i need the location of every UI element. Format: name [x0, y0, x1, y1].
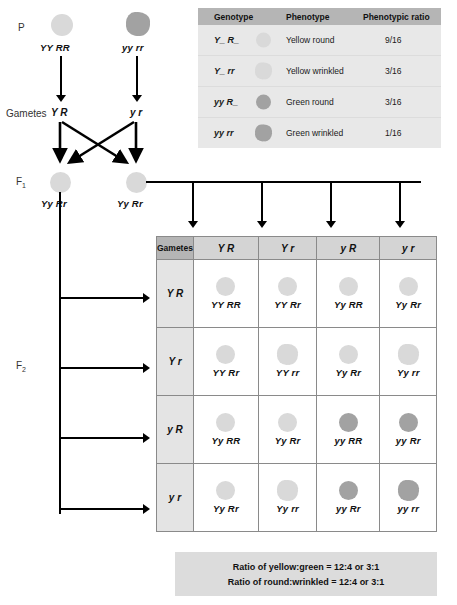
pea-yellow-wrinkled-icon	[256, 64, 271, 79]
pea-green-wrinkled-icon	[256, 126, 271, 141]
phenotype-legend-table: Genotype Phenotype Phenotypic ratio Y_ R…	[198, 8, 441, 148]
col-arrow-shaft-4	[399, 181, 401, 222]
pea-green-round-icon	[256, 95, 271, 110]
punnett-cell-genotype: Yy RR	[334, 299, 363, 310]
legend-header-ratio: Phenotypic ratio	[363, 12, 430, 22]
legend-genotype: Y_ R_	[214, 35, 239, 45]
punnett-cell-genotype: yy Rr	[396, 435, 421, 446]
punnett-row-header-2: Y r	[157, 328, 194, 396]
row-arrow-shaft-4	[59, 508, 144, 510]
pea-yellow-round-icon	[51, 14, 73, 36]
pea-yellow-round-icon	[216, 481, 235, 500]
punnett-cell: Yy rr	[380, 328, 437, 396]
col-arrowhead-1	[188, 221, 198, 228]
legend-genotype: yy R_	[214, 97, 238, 107]
col-arrow-shaft-2	[261, 181, 263, 222]
pea-yellow-round-icon	[339, 345, 358, 364]
punnett-cell: Yy Rr	[193, 464, 258, 532]
punnett-col-header-3: y R	[317, 237, 380, 260]
punnett-cell: YY RR	[193, 260, 258, 328]
row-arrowhead-1	[143, 293, 150, 303]
legend-phenotype: Yellow round	[286, 35, 334, 45]
cross-arrows-group	[40, 120, 170, 175]
legend-pea-swatch	[256, 126, 271, 141]
legend-row: yy rr Green wrinkled 1/16	[198, 118, 441, 148]
legend-pea-swatch	[256, 95, 271, 110]
punnett-corner-label: Gametes	[157, 237, 194, 260]
generation-label-f1-sub: 1	[22, 182, 26, 189]
legend-header-phenotype: Phenotype	[286, 12, 329, 22]
punnett-row-header-1: Y R	[157, 260, 194, 328]
parental-gamete-2: y r	[130, 107, 142, 118]
arrow-shaft-parent-2	[136, 56, 138, 96]
punnett-row: y R Yy RR Yy Rr yy RR yy Rr	[157, 396, 437, 464]
pea-yellow-wrinkled-icon	[278, 481, 297, 500]
col-arrowhead-2	[257, 221, 267, 228]
punnett-cell-genotype: yy rr	[397, 503, 419, 514]
row-arrow-shaft-2	[59, 367, 144, 369]
parent-1-genotype: YY RR	[40, 42, 70, 53]
pea-yellow-wrinkled-icon	[278, 345, 297, 364]
legend-genotype: yy rr	[214, 128, 234, 138]
legend-phenotype: Yellow wrinkled	[286, 66, 344, 76]
punnett-cell: yy Rr	[380, 396, 437, 464]
pea-green-round-icon	[399, 413, 418, 432]
punnett-row-header-4: y r	[157, 464, 194, 532]
pea-yellow-round-icon	[339, 277, 358, 296]
punnett-cell-genotype: YY Rr	[213, 367, 240, 378]
legend-phenotype: Green round	[286, 97, 334, 107]
f2-bus-vertical	[59, 192, 61, 514]
legend-genotype: Y_ rr	[214, 66, 235, 76]
punnett-cell: Yy Rr	[258, 396, 316, 464]
legend-header-row: Genotype Phenotype Phenotypic ratio	[198, 8, 441, 25]
punnett-cell-genotype: Yy rr	[397, 367, 420, 378]
punnett-cell: yy RR	[317, 396, 380, 464]
row-arrowhead-3	[143, 433, 150, 443]
punnett-cell-genotype: YY rr	[276, 367, 300, 378]
punnett-cell: Yy Rr	[380, 260, 437, 328]
f1-offspring-1-genotype: Yy Rr	[41, 198, 67, 209]
pea-yellow-wrinkled-icon	[399, 345, 418, 364]
punnett-cell: YY Rr	[258, 260, 316, 328]
legend-header-genotype: Genotype	[214, 12, 253, 22]
punnett-cell-genotype: Yy Rr	[275, 435, 301, 446]
pea-green-wrinkled-icon	[399, 481, 418, 500]
pea-green-wrinkled-icon	[127, 13, 149, 35]
parental-gamete-1: Y R	[51, 107, 68, 118]
punnett-cell: yy rr	[380, 464, 437, 532]
punnett-col-header-1: Y R	[193, 237, 258, 260]
punnett-cell-genotype: Yy Rr	[395, 299, 421, 310]
legend-ratio: 1/16	[385, 128, 402, 138]
generation-label-f2: F2	[16, 360, 26, 373]
col-arrow-shaft-3	[330, 181, 332, 222]
ratio-summary-box: Ratio of yellow:green = 12:4 or 3:1 Rati…	[175, 552, 437, 596]
pea-yellow-round-icon	[216, 413, 235, 432]
f1-offspring-1-pea	[50, 172, 71, 193]
punnett-cell: Yy RR	[193, 396, 258, 464]
punnett-cell: YY rr	[258, 328, 316, 396]
pea-yellow-round-icon	[278, 277, 297, 296]
punnett-row: y r Yy Rr Yy rr yy Rr yy rr	[157, 464, 437, 532]
f1-offspring-2-genotype: Yy Rr	[117, 198, 143, 209]
legend-pea-swatch	[256, 33, 271, 48]
legend-ratio: 9/16	[385, 35, 402, 45]
punnett-cell-genotype: Yy Rr	[335, 367, 361, 378]
legend-ratio: 3/16	[385, 97, 402, 107]
ratio-round-wrinkled: Ratio of round:wrinkled = 12:4 or 3:1	[228, 577, 384, 587]
punnett-cell: Yy RR	[317, 260, 380, 328]
punnett-cell: Yy rr	[258, 464, 316, 532]
pea-yellow-round-icon	[126, 172, 147, 193]
f1-offspring-2-pea	[126, 172, 147, 193]
pea-yellow-round-icon	[256, 33, 271, 48]
punnett-cell-genotype: YY RR	[211, 299, 241, 310]
arrowhead-parent-1	[56, 95, 66, 102]
punnett-col-header-4: y r	[380, 237, 437, 260]
parent-2-pea	[127, 13, 149, 35]
legend-row: Y_ R_ Yellow round 9/16	[198, 25, 441, 56]
row-arrow-shaft-1	[59, 297, 144, 299]
punnett-col-header-2: Y r	[258, 237, 316, 260]
punnett-row: Y r YY Rr YY rr Yy Rr Yy rr	[157, 328, 437, 396]
legend-phenotype: Green wrinkled	[286, 128, 343, 138]
generation-label-p: P	[18, 22, 25, 33]
col-arrowhead-4	[395, 221, 405, 228]
